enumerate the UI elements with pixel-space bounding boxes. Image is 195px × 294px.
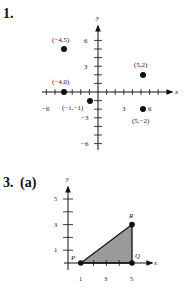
coordinate-plane-1: y x 6 3 −3 −6 −6 3 6 (−4,5) (−4,0) (−1,−… [42,14,179,150]
point-label: (−1,−1) [62,104,84,112]
point-q-label: Q [135,252,140,260]
tick-label: −3 [81,114,89,122]
tick-label: 1 [79,275,82,282]
point-label: (5,2) [134,61,148,69]
tick-label: −6 [42,105,50,113]
y-axis-label: y [65,175,70,183]
tick-label: 3 [104,275,107,282]
point-dot [140,72,146,78]
tick-label: 5 [54,195,57,202]
shaded-triangle-pqr [81,225,132,263]
tick-label: 3 [84,63,88,71]
point-dot [87,98,93,104]
point-label: (−4,5) [52,36,70,44]
point-p-dot [78,260,84,266]
point-dot [140,106,146,112]
tick-label: 3 [122,105,126,113]
tick-label: 5 [130,275,133,282]
y-axis-label: y [95,14,100,22]
point-label: (−4,0) [52,78,70,86]
tick-label: 1 [54,246,57,253]
point-dot [61,46,67,52]
point-label: (5,−2) [132,117,150,125]
x-axis-label: x [174,88,179,96]
tick-label: 3 [54,221,57,228]
coordinate-plane-2: y x 5 3 1 1 3 5 P Q R [54,175,158,282]
point-dot [61,89,67,95]
figures: y x 6 3 −3 −6 −6 3 6 (−4,5) (−4,0) (−1,−… [0,0,195,294]
point-q-dot [129,260,135,266]
tick-label: 6 [148,105,152,113]
tick-label: −6 [81,140,89,148]
point-r-dot [129,222,135,228]
point-r-label: R [128,212,134,220]
x-axis-label: x [153,259,158,267]
tick-label: 6 [84,37,88,45]
point-p-label: P [70,254,76,262]
